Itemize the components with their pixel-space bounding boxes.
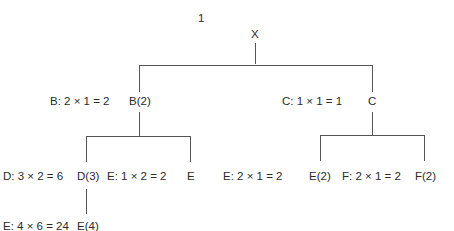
edge-b-to-d <box>86 136 87 162</box>
edge-x-to-c <box>372 65 373 92</box>
calc-f: F: 2 × 1 = 2 <box>342 170 401 182</box>
node-e-under-c: E(2) <box>309 170 331 182</box>
edge-c-to-f <box>424 135 425 161</box>
edge-c-to-e2 <box>320 135 321 161</box>
edge-c-crossbar <box>320 135 425 136</box>
node-b: B(2) <box>129 95 151 107</box>
node-e-under-d: E(4) <box>77 220 99 231</box>
edge-b-to-e <box>190 136 191 162</box>
step-number-label: 1 <box>198 12 204 24</box>
edge-c-stem <box>372 112 373 135</box>
edge-x-stem <box>255 43 256 64</box>
calc-c: C: 1 × 1 = 1 <box>282 95 342 107</box>
node-c: C <box>368 95 376 107</box>
edge-b-stem <box>139 112 140 136</box>
calc-b: B: 2 × 1 = 2 <box>50 95 109 107</box>
calc-e-under-d: E: 4 × 6 = 24 <box>3 220 69 231</box>
node-x: X <box>251 28 259 40</box>
calc-e-under-b: E: 1 × 2 = 2 <box>107 170 166 182</box>
edge-b-crossbar <box>86 136 191 137</box>
edge-d-to-e <box>86 189 87 214</box>
calc-d: D: 3 × 2 = 6 <box>3 170 63 182</box>
edge-x-to-b <box>139 65 140 92</box>
calc-e-under-c: E: 2 × 1 = 2 <box>223 170 282 182</box>
edge-x-crossbar <box>139 65 373 66</box>
node-f: F(2) <box>415 170 436 182</box>
node-d: D(3) <box>77 170 99 182</box>
node-e-under-b: E <box>187 170 195 182</box>
